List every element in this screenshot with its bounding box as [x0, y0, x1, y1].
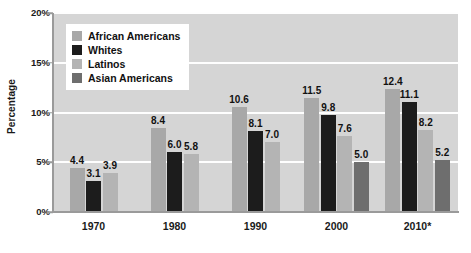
legend-item: Latinos: [72, 57, 180, 71]
bar-chart-figure: Percentage 20%15%10%5%0% 4.43.13.98.46.0…: [0, 0, 471, 253]
bar-value-label: 4.4: [70, 156, 84, 166]
bar-value-label: 7.0: [265, 130, 279, 140]
legend-label: African Americans: [88, 31, 180, 42]
legend-item: Whites: [72, 43, 180, 57]
legend-swatch: [72, 59, 82, 69]
bar: [184, 154, 199, 212]
x-axis-line: [53, 211, 459, 213]
y-axis-tickmark: [47, 12, 53, 14]
y-axis-title-text: Percentage: [6, 79, 17, 134]
bar: [103, 173, 118, 212]
bar: [418, 130, 433, 212]
bar: [265, 142, 280, 212]
x-axis-group-label: 1970: [82, 220, 105, 232]
bar: [354, 162, 369, 212]
legend-swatch: [72, 73, 82, 83]
bar-value-label: 3.1: [87, 169, 101, 179]
bar: [151, 128, 166, 212]
bar: [435, 160, 450, 212]
bar-value-label: 11.1: [400, 90, 419, 100]
legend-item: African Americans: [72, 29, 180, 43]
x-axis-group-label: 2000: [325, 220, 348, 232]
y-axis-tick-label: 20%: [20, 8, 50, 18]
bar: [86, 181, 101, 212]
bar-value-label: 5.2: [435, 148, 449, 158]
bar: [70, 168, 85, 212]
y-axis-tickmark: [47, 112, 53, 114]
bar: [321, 115, 336, 213]
bar-value-label: 11.5: [302, 86, 321, 96]
legend-label: Latinos: [88, 59, 125, 70]
bar: [167, 152, 182, 212]
bar-value-label: 12.4: [383, 77, 402, 87]
gridline: [53, 12, 458, 14]
y-axis-tickmark: [47, 62, 53, 64]
bar-value-label: 3.9: [103, 161, 117, 171]
bar-value-label: 8.2: [419, 118, 433, 128]
legend-item: Asian Americans: [72, 71, 180, 85]
y-axis-tickmark: [47, 211, 53, 213]
y-axis-tick-label: 15%: [20, 58, 50, 68]
x-axis-group-label: 1990: [244, 220, 267, 232]
legend-label: Whites: [88, 45, 122, 56]
chart-legend: African AmericansWhitesLatinosAsian Amer…: [66, 24, 189, 90]
x-axis-group-label: 2010*: [404, 220, 431, 232]
bar-value-label: 10.6: [229, 95, 248, 105]
bar-value-label: 5.8: [184, 142, 198, 152]
bar: [304, 98, 319, 212]
y-axis-tick-label: 0%: [20, 207, 50, 217]
bar: [337, 136, 352, 212]
bar-value-label: 8.1: [249, 119, 263, 129]
bar: [402, 102, 417, 212]
bar-value-label: 9.8: [321, 103, 335, 113]
y-axis-tick-label: 5%: [20, 158, 50, 168]
bar: [385, 89, 400, 212]
bar: [248, 131, 263, 212]
bar: [232, 107, 247, 212]
y-axis-tickmark: [47, 162, 53, 164]
legend-swatch: [72, 45, 82, 55]
bar-value-label: 7.6: [338, 124, 352, 134]
y-axis-tick-label: 10%: [20, 108, 50, 118]
bar-value-label: 8.4: [151, 116, 165, 126]
x-axis-group-label: 1980: [163, 220, 186, 232]
bar-value-label: 5.0: [354, 150, 368, 160]
legend-swatch: [72, 31, 82, 41]
legend-label: Asian Americans: [88, 73, 173, 84]
y-axis-tick-labels: 20%15%10%5%0%: [18, 0, 50, 253]
bar-value-label: 6.0: [168, 140, 182, 150]
